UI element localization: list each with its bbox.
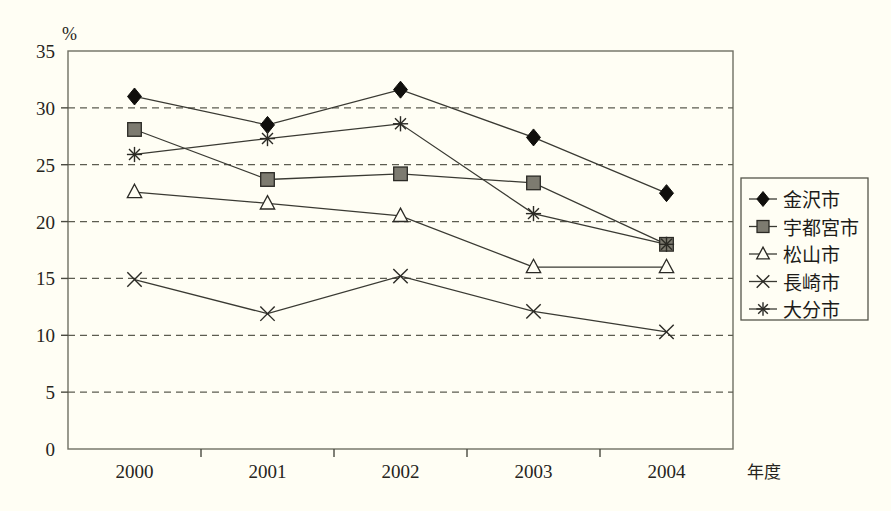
data-point-triangle-marker (526, 259, 540, 272)
series-line (135, 124, 667, 245)
data-point-diamond-marker (527, 129, 541, 146)
data-point-square-marker (394, 167, 408, 181)
y-axis-ticks (61, 108, 68, 392)
data-point-x-marker (127, 272, 141, 286)
y-tick-label: 30 (36, 98, 55, 119)
data-point-triangle-marker (260, 196, 274, 209)
legend-label: 宇都宮市 (783, 218, 859, 239)
data-point-square-marker (527, 176, 541, 190)
series-line (135, 276, 667, 332)
data-point-diamond-marker (261, 116, 275, 133)
y-tick-label: 0 (46, 439, 56, 460)
legend-label: 大分市 (783, 300, 840, 321)
data-point-asterisk-marker (659, 237, 674, 252)
data-point-x-marker (526, 304, 540, 318)
data-point-square-marker (128, 123, 142, 137)
chart-container: 05101520253035 20002001200220032004 % 年度… (0, 0, 891, 511)
x-tick-label: 2004 (648, 461, 687, 482)
legend-item-1[interactable]: 金沢市 (749, 190, 840, 211)
line-chart: 05101520253035 20002001200220032004 % 年度… (0, 0, 891, 511)
y-tick-label: 15 (36, 268, 55, 289)
series-line (135, 192, 667, 267)
x-axis-name-label: 年度 (747, 463, 781, 482)
legend-label: 金沢市 (783, 190, 840, 211)
x-tick-label: 2003 (515, 461, 553, 482)
data-point-asterisk-marker (526, 206, 541, 221)
y-axis-tick-labels: 05101520253035 (36, 41, 55, 460)
data-point-x-marker (393, 269, 407, 283)
data-point-asterisk-marker (260, 131, 275, 146)
legend-item-3[interactable]: 松山市 (749, 245, 840, 266)
data-point-x-marker (659, 325, 673, 339)
legend-square-marker (757, 221, 769, 233)
data-point-diamond-marker (394, 81, 408, 98)
legend-item-2[interactable]: 宇都宮市 (749, 218, 859, 239)
y-tick-label: 10 (36, 325, 55, 346)
legend-item-5[interactable]: 大分市 (749, 300, 840, 321)
series-line (135, 129, 667, 244)
data-point-triangle-marker (659, 259, 673, 272)
legend-triangle-marker (757, 247, 770, 259)
y-tick-label: 25 (36, 155, 55, 176)
y-axis-unit-label: % (62, 24, 77, 44)
data-point-square-marker (261, 173, 275, 187)
legend-asterisk-marker (756, 302, 769, 315)
x-tick-label: 2001 (249, 461, 287, 482)
legend-diamond-marker (757, 192, 769, 207)
x-axis-ticks (201, 449, 600, 457)
y-tick-label: 35 (36, 41, 55, 62)
x-axis-tick-labels: 20002001200220032004 (116, 461, 687, 482)
y-tick-label: 20 (36, 212, 55, 233)
data-point-x-marker (260, 306, 274, 320)
data-point-diamond-marker (128, 88, 142, 105)
legend-label: 松山市 (783, 245, 840, 266)
y-tick-label: 5 (46, 382, 56, 403)
data-point-triangle-marker (127, 184, 141, 197)
data-point-diamond-marker (660, 185, 674, 202)
x-tick-label: 2002 (382, 461, 420, 482)
data-point-asterisk-marker (393, 116, 408, 131)
x-tick-label: 2000 (116, 461, 154, 482)
legend-entries: 金沢市宇都宮市松山市長崎市大分市 (749, 190, 859, 321)
legend-label: 長崎市 (783, 273, 840, 294)
data-point-asterisk-marker (127, 147, 142, 162)
plot-area-frame (68, 51, 733, 449)
legend-item-4[interactable]: 長崎市 (749, 273, 840, 294)
